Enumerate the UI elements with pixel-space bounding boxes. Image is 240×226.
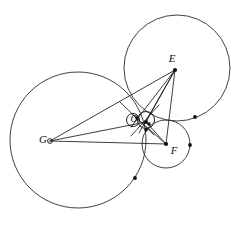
center-E-marker	[173, 68, 177, 72]
segment-E-F	[166, 70, 175, 144]
labels-group: E F G O	[39, 52, 178, 156]
geometry-diagram-svg: E F G O	[0, 0, 240, 226]
segment-G-E	[50, 70, 175, 141]
tangency-on-circle-E	[193, 115, 197, 119]
label-E: E	[168, 52, 176, 64]
label-F: F	[170, 144, 178, 156]
center-F-marker	[164, 142, 168, 146]
main-circles-group	[10, 15, 230, 208]
tangency-on-circle-F	[188, 143, 192, 147]
segment-G-O	[50, 122, 146, 141]
circle-G	[10, 72, 146, 208]
segment-E-lower-left	[139, 70, 175, 133]
circle-E	[124, 15, 230, 121]
label-G: G	[39, 133, 47, 145]
segment-G-F	[50, 141, 166, 144]
label-O: O	[131, 114, 138, 124]
tangency-on-circle-G	[133, 176, 137, 180]
center-O-marker	[144, 120, 148, 124]
geometry-figure-root: E F G O	[0, 0, 240, 226]
tangency-lower	[144, 128, 147, 131]
